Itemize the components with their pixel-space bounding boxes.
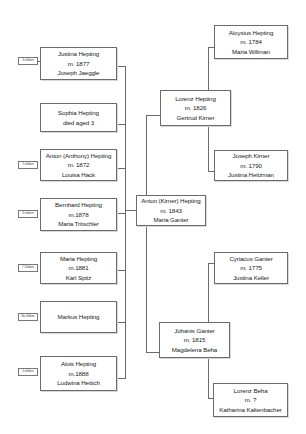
children-connector-spine (125, 66, 126, 379)
person-name: Anton (Kirner) Hepting (141, 196, 200, 206)
person-name: Lorenz Beha (234, 386, 268, 396)
person-box-joseph-kirner: Joseph Kirner m. 1790 Justina Heitzman (214, 150, 288, 181)
spouse-name: Karl Spitz (66, 273, 91, 283)
connector-child-4 (117, 213, 126, 214)
marriage-year: m. 1872 (68, 160, 90, 170)
connector-lorenz (146, 115, 160, 116)
person-box-justina-hepting: Justina Hepting m. 1877 Joseph Jaeggle (40, 47, 117, 80)
connector-child-1 (117, 66, 126, 67)
person-name: Sophia Hepting (58, 108, 99, 118)
marriage-year: m. 1815 (184, 335, 206, 345)
spouse-name: Maria Tritschler (58, 219, 99, 229)
person-name: Aloysius Hepting (229, 28, 274, 38)
person-box-markus-hepting: Markus Hepting (40, 301, 117, 333)
marriage-year: m. 1775 (240, 263, 262, 273)
marriage-year: m. 1790 (240, 161, 262, 171)
person-box-anton-kirner-hepting: Anton (Kirner) Hepting m. 1843 Maria Gan… (136, 195, 206, 226)
connector-child-2 (117, 124, 126, 125)
spouse-name: Maria Ganter (154, 215, 189, 225)
marriage-year: m.1888 (68, 369, 88, 379)
person-box-cyriacus-ganter: Cyriacus Ganter m. 1775 Justina Keller (214, 252, 288, 284)
parents-connector-spine (146, 115, 147, 353)
children-count-tag: 5 children (18, 161, 38, 169)
spouse-name: Justina Keller (233, 273, 269, 283)
marriage-year: m. ? (245, 395, 257, 405)
children-count-tag: 6 children (18, 210, 38, 218)
spouse-name: Magdelena Beha (172, 345, 217, 355)
person-name: Lorenz Hepting (175, 94, 216, 104)
person-name: Alois Hepting (61, 359, 96, 369)
spouse-name: Ludwina Hettich (57, 378, 100, 388)
person-box-bernhard-hepting: Bernhard Hepting m.1878 Maria Tritschler (40, 198, 117, 231)
spouse-name: Louisa Hack (62, 170, 95, 180)
spouse-name: Joseph Jaeggle (58, 68, 100, 78)
marriage-year: m. 1784 (240, 37, 262, 47)
connector-johanis (146, 352, 159, 353)
person-name: Johanis Ganter (174, 326, 215, 336)
spouse-name: Katharina Kaltenbacher (219, 405, 281, 415)
death-note: died aged 3 (63, 118, 94, 128)
spouse-name: Justina Heitzman (228, 170, 274, 180)
children-count-tag: 3 children (18, 57, 38, 65)
marriage-year: m.1878 (68, 210, 88, 220)
person-box-lorenz-beha: Lorenz Beha m. ? Katharina Kaltenbacher (213, 383, 288, 417)
person-name: Joseph Kirner (233, 151, 270, 161)
children-count-tag: 7 Children (18, 264, 38, 272)
connector-spine-root (125, 210, 136, 211)
person-name: Bernhard Hepting (55, 200, 102, 210)
children-count-tag: No children (18, 313, 38, 321)
person-name: Maria Hepting (60, 254, 97, 264)
children-count-tag: 4 children (18, 368, 38, 376)
person-box-aloysius-hepting: Aloysius Hepting m. 1784 Maria Willman (214, 25, 288, 59)
person-name: Cyriacus Ganter (229, 254, 272, 264)
person-box-sophia-hepting: Sophia Hepting died aged 3 (40, 103, 117, 132)
connector-child-6 (117, 322, 126, 323)
person-box-johanis-ganter: Johanis Ganter m. 1815 Magdelena Beha (159, 322, 230, 358)
person-box-alois-hepting: Alois Hepting m.1888 Ludwina Hettich (40, 356, 117, 391)
person-box-maria-hepting: Maria Hepting m.1881 Karl Spitz (40, 252, 117, 284)
marriage-year: m.1881 (68, 263, 88, 273)
person-name: Anton (Anthony) Hepting (46, 151, 111, 161)
marriage-year: m. 1843 (160, 206, 182, 216)
spouse-name: Gertrud Kirner (177, 113, 215, 123)
person-box-lorenz-hepting: Lorenz Hepting m. 1826 Gertrud Kirner (160, 90, 231, 126)
connector-child-7 (117, 378, 126, 379)
spouse-name: Maria Willman (232, 47, 270, 57)
person-name: Justina Hepting (58, 49, 99, 59)
marriage-year: m. 1826 (185, 103, 207, 113)
person-name: Markus Hepting (58, 312, 100, 322)
connector-child-3 (117, 168, 126, 169)
marriage-year: m. 1877 (68, 59, 90, 69)
connector-child-5 (117, 270, 126, 271)
person-box-anton-anthony-hepting: Anton (Anthony) Hepting m. 1872 Louisa H… (40, 149, 117, 181)
